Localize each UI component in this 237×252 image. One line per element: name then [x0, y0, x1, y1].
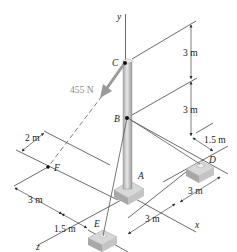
label-C: C	[112, 58, 119, 68]
label-E: E	[93, 219, 100, 229]
label-F: F	[53, 163, 60, 173]
dim-D-offset: 1.5 m	[204, 135, 226, 145]
x-axis-label: x	[194, 220, 200, 230]
dimension-F-x: 2 m	[22, 133, 44, 151]
ground-grid: x z	[14, 118, 228, 252]
dim-E-x: 3 m	[145, 214, 160, 224]
dim-CB: 3 m	[183, 48, 198, 58]
dim-BA: 3 m	[183, 105, 198, 115]
base-E	[88, 230, 117, 252]
point-B	[125, 116, 129, 120]
diagram-canvas: y x z 3 m 3 m 1.5 m	[0, 0, 237, 252]
force-label: 455 N	[70, 85, 94, 95]
dim-F-z: 3 m	[28, 195, 43, 205]
point-C	[123, 61, 127, 65]
dim-E-z: 1.5 m	[54, 224, 76, 234]
dimension-D-offset: 1.5 m	[193, 135, 226, 151]
dimension-E-z: 1.5 m	[54, 214, 87, 234]
dimension-vertical: 3 m 3 m	[183, 25, 198, 136]
reference-lines	[132, 21, 213, 133]
dimension-E-x: 3 m	[128, 204, 175, 234]
cable-BD	[128, 118, 200, 164]
y-axis: y	[116, 12, 126, 62]
dim-F-x: 2 m	[25, 133, 40, 143]
label-A: A	[137, 171, 144, 181]
z-axis-label: z	[35, 242, 40, 252]
y-axis-label: y	[116, 12, 122, 22]
label-B: B	[114, 114, 120, 124]
dimension-F-z: 3 m	[15, 188, 62, 214]
label-D: D	[208, 155, 216, 165]
pole	[123, 59, 132, 189]
point-F	[46, 165, 50, 169]
dim-D-x: 3 m	[188, 186, 203, 196]
force-arrow	[100, 64, 124, 98]
